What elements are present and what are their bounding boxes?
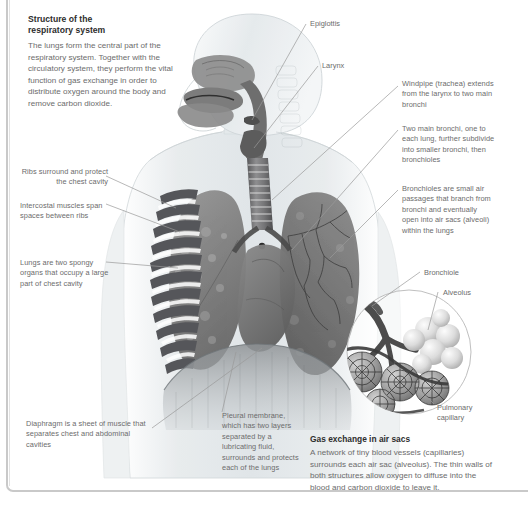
intro-title-line2: respiratory system (28, 25, 158, 36)
pulmonary-capillary-line2: capillary (437, 413, 472, 423)
inset-body: A network of tiny blood vessels (capilla… (310, 447, 496, 494)
callout-bronchi: Two main bronchi, one to each lung, furt… (402, 124, 497, 166)
callout-pulmonary-capillary: Pulmonary capillary (437, 403, 472, 423)
callout-epiglottis: Epiglottis (310, 19, 340, 29)
callout-ribs: Ribs surround and protect the chest cavi… (20, 167, 108, 188)
intro-title-line1: Structure of the (28, 14, 158, 25)
pulmonary-capillary-line1: Pulmonary (437, 403, 472, 413)
intro-title: Structure of the respiratory system (28, 14, 158, 37)
callout-larynx: Larynx (322, 61, 344, 71)
callout-windpipe: Windpipe (trachea) extends from the lary… (402, 79, 497, 110)
callout-bronchiole: Bronchiole (424, 268, 459, 278)
callout-diaphragm: Diaphragm is a sheet of muscle that sepa… (26, 419, 152, 450)
inset-title: Gas exchange in air sacs (310, 434, 495, 446)
intro-body: The lungs form the central part of the r… (28, 40, 176, 110)
callout-intercostal-muscles: Intercostal muscles span spaces between … (20, 201, 108, 222)
callout-alveolus: Alveolus (443, 288, 471, 298)
callout-lungs: Lungs are two spongy organs that occupy … (20, 258, 110, 289)
callout-pleural-membrane: Pleural membrane, which has two layers s… (222, 411, 306, 473)
callout-bronchioles: Bronchioles are small air passages that … (402, 184, 495, 236)
